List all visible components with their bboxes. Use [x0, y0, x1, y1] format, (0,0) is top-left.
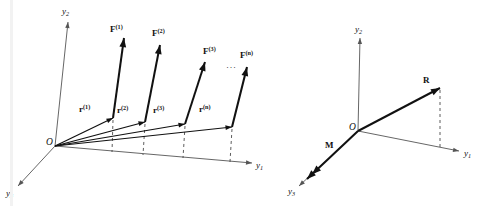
left-axis-y1 [55, 146, 252, 163]
right-axis-y2-arrowhead [358, 38, 362, 44]
right-axis-y2 [358, 38, 360, 131]
left-position-vector-r1 [55, 118, 113, 146]
left-force-vector-Fn [232, 67, 247, 127]
right-diagram-resultant-moment: y2y1y3RMO [287, 24, 471, 197]
left-force-vector-F3-arrowhead [199, 62, 205, 72]
left-diagram-system-of-forces: y2y1y3r(1)r(2)r(3)r(n)F(1)F(2)F(3)F(n)··… [5, 6, 263, 199]
right-origin-label: O [349, 122, 356, 132]
right-vector-label-R: R [423, 75, 430, 85]
left-drop-2 [143, 124, 145, 155]
right-axis-y1 [358, 131, 459, 151]
left-force-vector-Fn-arrowhead [242, 67, 249, 77]
left-force-vector-F1-arrowhead [119, 38, 126, 47]
left-position-vector-label-r1: r(1) [79, 103, 90, 114]
left-ellipsis: ··· [226, 62, 237, 72]
left-position-vector-r2 [55, 122, 145, 146]
left-axis-y3 [18, 146, 55, 186]
left-origin-label: O [46, 137, 53, 147]
left-force-vector-label-F3: F(3) [203, 45, 216, 56]
left-position-vector-label-rn: r(n) [199, 103, 211, 114]
left-position-vector-label-r2: r(2) [117, 104, 128, 115]
left-position-vector-r3 [55, 124, 185, 146]
figure-root: y2y1y3r(1)r(2)r(3)r(n)F(1)F(2)F(3)F(n)··… [0, 0, 488, 206]
right-vector-R [358, 88, 440, 131]
right-axis-label-y3: y3 [287, 186, 295, 197]
left-axis-label-y2: y2 [61, 6, 69, 17]
right-vector-label-M: M [325, 140, 334, 150]
right-vector-R-arrowhead [430, 88, 440, 95]
left-position-vector-r2-arrowhead [138, 121, 145, 126]
left-axis-y2 [55, 22, 68, 146]
left-force-vector-label-Fn: F(n) [240, 49, 253, 60]
left-axis-label-y1: y1 [255, 160, 263, 171]
left-position-vector-r3-arrowhead [178, 123, 185, 128]
vector-diagram-svg: y2y1y3r(1)r(2)r(3)r(n)F(1)F(2)F(3)F(n)··… [0, 0, 488, 206]
left-force-vector-F3 [185, 62, 205, 124]
left-force-vector-label-F1: F(1) [110, 23, 123, 34]
left-force-vector-label-F2: F(2) [152, 27, 165, 38]
left-position-vector-r1-arrowhead [106, 118, 113, 123]
left-drop-3 [183, 126, 185, 158]
scan-artifact [10, 0, 13, 206]
left-drop-n [230, 129, 232, 162]
right-axis-y1-arrowhead [453, 148, 459, 152]
right-axis-label-y1: y1 [463, 148, 471, 159]
left-position-vector-label-r3: r(3) [153, 104, 164, 115]
right-axis-label-y2: y2 [354, 24, 362, 35]
left-axis-y2-arrowhead [65, 22, 69, 28]
